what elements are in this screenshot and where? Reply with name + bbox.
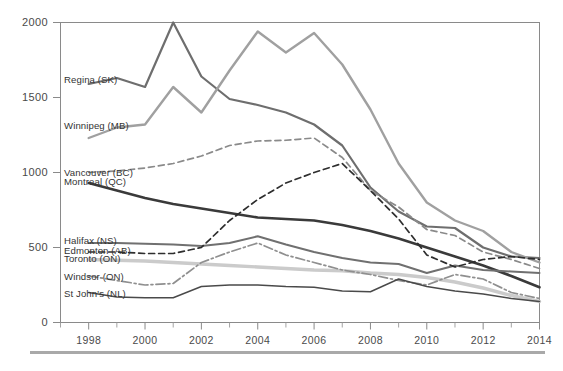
x-tick-label: 2012: [471, 334, 496, 346]
series-label-regina-sk: Regina (SK): [64, 74, 117, 85]
series-line-toronto-on: [89, 260, 540, 302]
series-line-halifax-ns: [89, 236, 540, 273]
y-tick-label: 1500: [22, 91, 48, 103]
x-tick-label: 2014: [527, 334, 552, 346]
y-tick-label: 1000: [22, 166, 48, 178]
x-tick-label: 2010: [414, 334, 439, 346]
y-tick-label: 2000: [22, 16, 48, 28]
series-line-st-john-s-nl: [89, 279, 540, 302]
series-line-vancouver-bc: [89, 138, 540, 269]
y-tick-label: 0: [41, 316, 48, 328]
series-label-st-john-s-nl: St John's (NL): [64, 288, 126, 299]
line-chart: 0500100015002000 19982000200220042006200…: [0, 0, 563, 371]
series-label-windsor-on: Windsor (ON): [64, 271, 124, 282]
x-tick-label: 2008: [358, 334, 383, 346]
series-label-winnipeg-mb: Winnipeg (MB): [64, 120, 129, 131]
series-label-toronto-on: Toronto (ON): [64, 253, 121, 264]
series-label-montreal-qc: Montreal (QC): [64, 176, 126, 187]
x-tick-label: 2002: [189, 334, 214, 346]
series-lines: [89, 23, 540, 302]
x-tick-label: 2004: [245, 334, 270, 346]
series-line-regina-sk: [89, 23, 540, 259]
series-line-winnipeg-mb: [89, 32, 540, 263]
series-labels: Regina (SK)Winnipeg (MB)Vancouver (BC)Mo…: [64, 74, 133, 299]
x-tick-label: 2000: [133, 334, 158, 346]
chart-svg: 0500100015002000 19982000200220042006200…: [0, 0, 563, 371]
x-tick-label: 2006: [302, 334, 327, 346]
y-tick-label: 500: [28, 241, 48, 253]
y-axis-ticks: 0500100015002000: [22, 16, 61, 328]
x-tick-label: 1998: [76, 334, 101, 346]
x-axis-ticks: 199820002002200420062008201020122014: [61, 323, 552, 346]
